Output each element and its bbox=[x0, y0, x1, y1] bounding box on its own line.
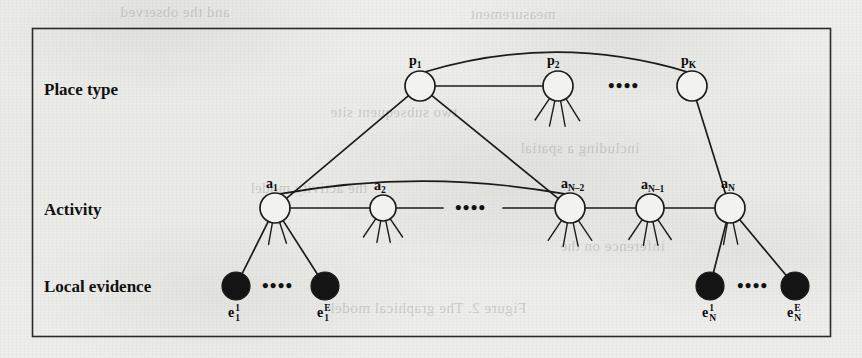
evidence-node-e1-E bbox=[311, 272, 339, 300]
edge-aN-eN_1 bbox=[713, 223, 726, 273]
place-node-p2-ray-1 bbox=[561, 101, 566, 127]
activity-node-a2 bbox=[370, 195, 396, 221]
activity-node-aN bbox=[715, 193, 745, 223]
place-node-pk bbox=[677, 71, 707, 101]
place-node-p2 bbox=[543, 71, 573, 101]
row-label-place-type: Place type bbox=[44, 80, 118, 100]
label-evidence-node-e1-E: eE1 bbox=[317, 304, 331, 323]
activity-node-a1-ray-1 bbox=[269, 223, 273, 245]
activity-node-aN-1-ray-0 bbox=[658, 220, 671, 240]
place-node-p2-ray-0 bbox=[566, 99, 580, 121]
place-node-p2-ray-2 bbox=[549, 101, 554, 126]
label-activity-node-aN-2: aN–2 bbox=[561, 177, 584, 194]
label-place-node-p1: p1 bbox=[409, 54, 422, 71]
label-evidence-node-eN-E: eEN bbox=[787, 304, 801, 323]
activity-node-a2-ray-0 bbox=[390, 219, 402, 237]
row-label-local-evidence: Local evidence bbox=[44, 277, 151, 297]
label-evidence-node-e1-1: e11 bbox=[228, 304, 240, 323]
activity-node-aN-ray-0 bbox=[733, 223, 738, 245]
evidence-right-ellipsis: •••• bbox=[737, 276, 768, 295]
edge-p1-aN-2 bbox=[432, 95, 559, 198]
activity-node-a2-ray-3 bbox=[363, 219, 375, 237]
evidence-left-ellipsis: •••• bbox=[262, 276, 293, 295]
activity-node-aN-1-ray-1 bbox=[653, 222, 658, 245]
label-place-node-p2: p2 bbox=[547, 54, 560, 71]
activity-node-a2-ray-2 bbox=[377, 221, 381, 243]
evidence-node-eN-1 bbox=[696, 272, 724, 300]
edge-a1-e1_E bbox=[283, 221, 317, 275]
activity-node-aN-1-ray-2 bbox=[643, 222, 647, 246]
place-row-ellipsis: •••• bbox=[608, 76, 639, 95]
place-node-p2-ray-3 bbox=[535, 98, 550, 120]
activity-node-a1 bbox=[260, 193, 290, 223]
label-activity-node-a1: a1 bbox=[266, 177, 278, 194]
place-node-p1 bbox=[405, 71, 435, 101]
activity-node-aN-2-ray-1 bbox=[573, 223, 578, 246]
activity-row-ellipsis: •••• bbox=[455, 198, 486, 217]
activity-node-a2-ray-1 bbox=[386, 221, 391, 243]
label-activity-node-aN: aN bbox=[721, 177, 735, 194]
row-label-activity: Activity bbox=[44, 200, 102, 220]
activity-node-aN-2-ray-3 bbox=[548, 220, 561, 240]
activity-node-aN-2-ray-2 bbox=[563, 223, 567, 247]
label-activity-node-a2: a2 bbox=[374, 179, 386, 196]
edge-a1-e1_1 bbox=[242, 221, 268, 273]
edge-aN-eN_E bbox=[740, 220, 786, 276]
activity-node-aN-1-ray-3 bbox=[629, 220, 642, 240]
label-activity-node-aN-1: aN–1 bbox=[641, 178, 664, 195]
edge-a1-aN-2-arc bbox=[279, 181, 567, 194]
evidence-node-eN-E bbox=[781, 272, 809, 300]
label-evidence-node-eN-1: e1N bbox=[702, 304, 716, 323]
activity-node-aN-1 bbox=[636, 194, 664, 222]
edge-p1-a1 bbox=[286, 96, 408, 199]
activity-node-aN-2 bbox=[555, 193, 585, 223]
evidence-node-e1-1 bbox=[222, 272, 250, 300]
activity-node-aN-2-ray-0 bbox=[578, 220, 591, 240]
evidence-ray-layer bbox=[269, 98, 738, 246]
label-place-node-pk: pK bbox=[681, 54, 696, 71]
